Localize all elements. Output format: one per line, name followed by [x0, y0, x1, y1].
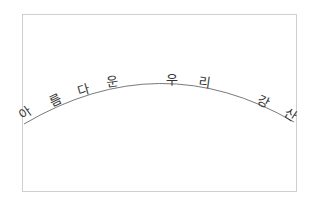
arc-character: 리 — [198, 74, 212, 91]
arc-character: 름 — [46, 91, 63, 110]
arc-character: 우 — [166, 72, 178, 87]
arc-character: 다 — [76, 81, 92, 99]
text-on-arc-figure: 아름다운우리강산 — [0, 0, 315, 201]
arc-character: 운 — [105, 74, 119, 91]
curved-text: 아름다운우리강산 — [16, 72, 299, 125]
curved-baseline — [24, 83, 294, 124]
